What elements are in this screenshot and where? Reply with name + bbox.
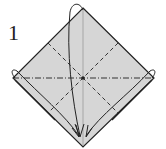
origami-diagram [0,0,166,149]
center-point [81,76,85,80]
